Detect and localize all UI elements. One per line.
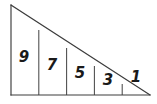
- strip-label-3: 3: [103, 71, 113, 89]
- strip-label-5: 5: [75, 64, 85, 82]
- triangle-strips-diagram: 9 7 5 3 1: [0, 0, 157, 104]
- strip-label-7: 7: [47, 56, 58, 74]
- figure-canvas: 9 7 5 3 1: [0, 0, 157, 104]
- strip-label-9: 9: [19, 48, 29, 66]
- strip-label-1: 1: [131, 68, 141, 86]
